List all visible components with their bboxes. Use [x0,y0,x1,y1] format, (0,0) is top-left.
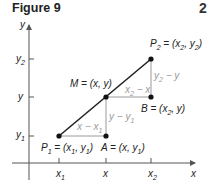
label-m: M = (x, y) [70,78,112,89]
label-x-minus-x1: x − x1 [76,121,102,134]
label-y2-minus-y: y2 − y [153,70,180,83]
x-tick-label-x2: x2 [147,168,157,181]
x-tick-label-x: x [102,168,109,179]
label-a: A = (x, y1) [100,142,145,155]
y-tick-label-y1: y1 [15,129,25,142]
y-axis-label: y [19,19,26,30]
label-p2: P2 = (x2, y2) [150,38,202,51]
midpoint-diagram: y x y2 y y1 x1 x x2 P2 = (x2, y2) M = (x… [0,0,207,192]
x-tick-label-x1: x1 [55,168,65,181]
point-p2 [148,56,153,61]
x-axis-label: x [190,168,197,179]
y-tick-label-y: y [17,91,24,102]
point-a [103,133,108,138]
point-b [148,94,153,99]
label-y-minus-y1: y − y1 [108,111,134,124]
label-p1: P1 = (x1, y1) [41,142,93,155]
point-p1 [56,133,61,138]
label-b: B = (x2, y) [141,103,185,116]
point-m [103,94,108,99]
label-x2-minus-x: x2 − x [124,84,151,97]
y-tick-label-y2: y2 [15,53,25,66]
